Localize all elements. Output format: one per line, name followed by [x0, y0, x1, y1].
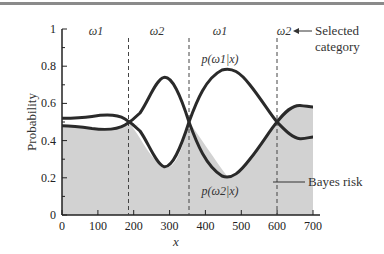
p-omega1-label: p(ω1|x)	[200, 52, 238, 66]
x-tick-200: 200	[125, 219, 143, 233]
p-omega2-label: p(ω2|x)	[200, 184, 238, 198]
y-tick-0.6: 0.6	[41, 96, 56, 110]
y-axis-label: Probability	[24, 93, 39, 151]
x-tick-400: 400	[196, 219, 214, 233]
region-label-omega2-a: ω2	[150, 24, 164, 38]
region-label-omega1-a: ω1	[89, 24, 103, 38]
x-tick-600: 600	[268, 219, 286, 233]
y-tick-1: 1	[50, 22, 56, 36]
x-tick-300: 300	[161, 219, 179, 233]
x-tick-500: 500	[232, 219, 250, 233]
x-tick-0: 0	[59, 219, 65, 233]
y-tick-0.4: 0.4	[41, 134, 56, 148]
region-label-omega1-b: ω1	[213, 24, 227, 38]
y-tick-0.8: 0.8	[41, 59, 56, 73]
x-axis-label: x	[172, 234, 179, 249]
y-tick-0: 0	[50, 208, 56, 222]
selected-category-label-2: category	[315, 39, 360, 54]
bayes-risk-label: Bayes risk	[308, 174, 363, 189]
chart: 0 0.2 0.4 0.6 0.8 1 0 100 200 300 400 50…	[0, 0, 384, 254]
selected-category-label-1: Selected	[315, 23, 360, 38]
x-tick-100: 100	[89, 219, 107, 233]
x-tick-700: 700	[304, 219, 322, 233]
y-tick-0.2: 0.2	[41, 171, 56, 185]
arrow-left-icon	[293, 28, 299, 34]
region-label-omega2-b: ω2	[277, 24, 291, 38]
